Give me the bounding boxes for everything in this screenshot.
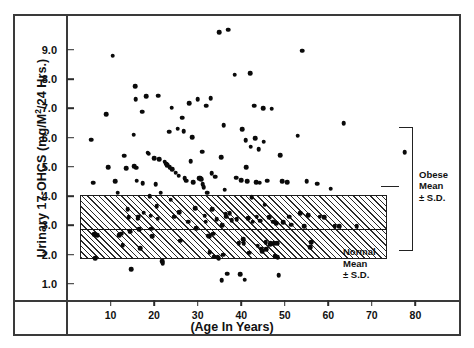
data-point	[154, 204, 159, 209]
data-point	[309, 240, 314, 245]
data-point	[257, 180, 262, 185]
figure-container: Urinary 17-OHCS (mg/M2/24 Hrs.) 1.02.03.…	[0, 0, 474, 348]
data-point	[147, 152, 152, 157]
data-point	[274, 221, 279, 226]
y-tick-mark	[67, 107, 74, 109]
data-point	[261, 106, 266, 111]
y-tick-mark	[67, 166, 74, 168]
data-point	[322, 215, 327, 220]
y-tick-label: 9.0	[42, 44, 57, 56]
y-tick-mark	[67, 78, 74, 80]
data-point	[250, 220, 255, 225]
data-point	[202, 213, 207, 218]
data-point	[115, 190, 120, 195]
data-point	[222, 187, 227, 192]
data-point	[304, 179, 309, 184]
data-point	[239, 178, 244, 183]
data-point	[91, 181, 96, 186]
y-axis-title: Urinary 17-OHCS (mg/M2/24 Hrs.)	[33, 33, 49, 283]
data-point	[104, 112, 109, 117]
data-point	[341, 121, 346, 126]
data-point	[95, 233, 100, 238]
x-axis-divider	[13, 300, 461, 302]
data-point	[177, 210, 182, 215]
obese-mean-stem	[381, 186, 399, 188]
data-point	[210, 207, 215, 212]
data-point	[190, 135, 195, 140]
data-point	[262, 139, 267, 144]
y-tick-label: 2.0	[42, 249, 57, 261]
data-point	[306, 213, 311, 218]
data-point	[154, 182, 159, 187]
data-point	[302, 224, 307, 229]
data-point	[208, 250, 213, 255]
data-point	[315, 181, 320, 186]
data-point	[188, 159, 193, 164]
data-point	[168, 198, 173, 203]
x-tick-mark	[153, 300, 155, 306]
data-point	[172, 214, 177, 219]
data-point	[236, 241, 241, 246]
y-tick-mark	[67, 137, 74, 139]
data-point	[204, 104, 209, 109]
data-point	[262, 203, 267, 208]
data-point	[152, 156, 157, 161]
data-point	[149, 227, 154, 232]
data-point	[93, 256, 98, 261]
data-point	[120, 243, 125, 248]
data-point	[238, 272, 243, 277]
y-tick-label: 8.0	[42, 73, 57, 85]
obese-legend-line-1: Mean	[419, 180, 448, 192]
data-point	[157, 157, 162, 162]
data-point	[211, 231, 216, 236]
data-point	[235, 217, 240, 222]
data-point	[275, 241, 280, 246]
y-tick-label: 4.0	[42, 190, 57, 202]
data-point	[228, 211, 233, 216]
data-point	[298, 211, 303, 216]
y-tick-label: 6.0	[42, 132, 57, 144]
data-point	[253, 136, 258, 141]
data-point	[136, 214, 141, 219]
data-point	[243, 138, 248, 143]
data-point	[144, 94, 149, 99]
data-point	[219, 278, 224, 283]
data-point	[205, 190, 210, 195]
y-tick-mark	[67, 195, 74, 197]
data-point	[138, 246, 143, 251]
data-point	[187, 101, 192, 106]
data-point	[249, 195, 254, 200]
y-tick-label: 7.0	[42, 102, 57, 114]
data-point	[248, 71, 253, 76]
data-point	[128, 229, 133, 234]
obese-legend-text: ObeseMean± S.D.	[419, 169, 448, 204]
data-point	[256, 147, 261, 152]
data-point	[276, 255, 281, 260]
y-tick-mark	[67, 49, 74, 51]
data-point	[276, 273, 281, 278]
x-tick-mark	[328, 300, 330, 306]
data-point	[161, 261, 166, 266]
data-point	[300, 48, 305, 53]
data-point	[140, 109, 145, 114]
data-point	[225, 271, 230, 276]
normal-legend-line-1: Mean	[343, 258, 376, 270]
data-point	[232, 73, 237, 78]
data-point	[219, 155, 224, 160]
data-point	[180, 115, 185, 120]
data-point	[285, 180, 290, 185]
x-tick-mark	[240, 300, 242, 306]
data-point	[89, 138, 94, 143]
data-point	[337, 224, 342, 229]
obese-legend-line-0: Obese	[419, 169, 448, 181]
plot-area: 1.02.03.04.05.06.07.08.09.0 102030405060…	[67, 16, 459, 300]
data-point	[169, 105, 174, 110]
y-tick-mark	[67, 254, 74, 256]
data-point	[252, 104, 257, 109]
data-point	[287, 214, 292, 219]
data-point	[125, 207, 130, 212]
data-point	[167, 129, 172, 134]
data-point	[186, 220, 191, 225]
data-point	[158, 190, 163, 195]
data-point	[141, 210, 146, 215]
